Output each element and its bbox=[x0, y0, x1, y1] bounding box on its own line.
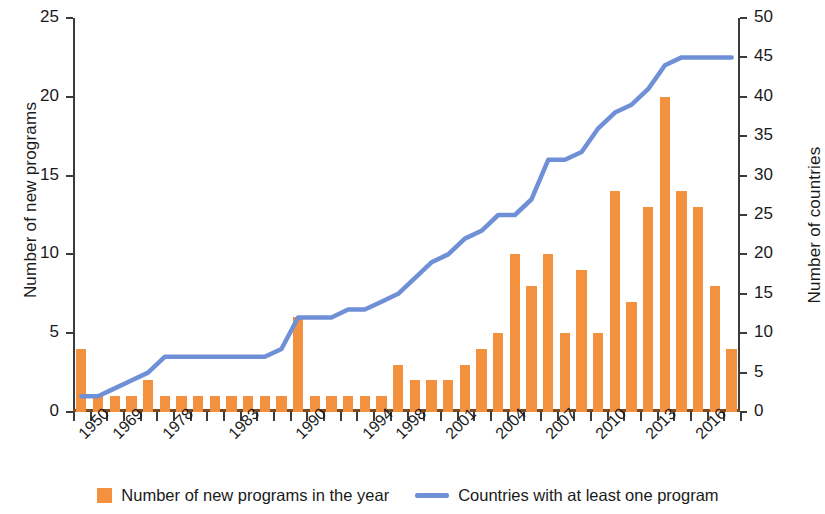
y-tick-label-right: 10 bbox=[754, 322, 773, 342]
y-tick-right bbox=[740, 372, 747, 374]
y-tick-left bbox=[66, 411, 73, 413]
x-tick bbox=[440, 412, 442, 421]
legend-line-icon bbox=[415, 493, 449, 498]
x-tick bbox=[290, 412, 292, 421]
x-tick bbox=[273, 412, 275, 421]
legend-label-line: Countries with at least one program bbox=[458, 486, 718, 505]
x-tick bbox=[206, 412, 208, 421]
y-tick-left bbox=[66, 17, 73, 19]
x-tick bbox=[73, 412, 75, 421]
x-axis-labels: 1950196919781983199019941998200120042007… bbox=[73, 424, 740, 484]
y-tick-left bbox=[66, 253, 73, 255]
line-series bbox=[73, 18, 740, 412]
x-tick bbox=[740, 412, 742, 421]
y-tick-label-left: 0 bbox=[0, 401, 59, 421]
y-tick-right bbox=[740, 56, 747, 58]
legend-item-bars: Number of new programs in the year bbox=[97, 486, 389, 505]
line-path bbox=[81, 57, 731, 396]
y-tick-right bbox=[740, 253, 747, 255]
x-tick bbox=[223, 412, 225, 421]
y-tick-right bbox=[740, 214, 747, 216]
y-axis-title-left: Number of new programs bbox=[21, 75, 41, 325]
y-tick-right bbox=[740, 96, 747, 98]
y-tick-label-right: 45 bbox=[754, 46, 773, 66]
y-tick-right bbox=[740, 175, 747, 177]
y-tick-label-right: 50 bbox=[754, 7, 773, 27]
y-tick-right bbox=[740, 135, 747, 137]
x-tick bbox=[540, 412, 542, 421]
y-tick-left bbox=[66, 332, 73, 334]
y-tick-label-right: 35 bbox=[754, 125, 773, 145]
y-tick-label-left: 20 bbox=[0, 86, 59, 106]
x-tick bbox=[490, 412, 492, 421]
y-tick-label-left: 5 bbox=[0, 322, 59, 342]
x-tick bbox=[356, 412, 358, 421]
y-tick-left bbox=[66, 175, 73, 177]
plot-area bbox=[73, 18, 740, 412]
y-tick-label-right: 5 bbox=[754, 362, 763, 382]
y-tick-label-right: 40 bbox=[754, 86, 773, 106]
y-tick-right bbox=[740, 17, 747, 19]
legend-item-line: Countries with at least one program bbox=[415, 486, 718, 505]
y-tick-label-right: 20 bbox=[754, 243, 773, 263]
y-tick-left bbox=[66, 96, 73, 98]
legend-label-bars: Number of new programs in the year bbox=[121, 486, 389, 505]
y-axis-title-right: Number of countries bbox=[805, 100, 825, 350]
y-tick-right bbox=[740, 293, 747, 295]
y-tick-label-right: 25 bbox=[754, 204, 773, 224]
x-tick bbox=[590, 412, 592, 421]
legend-square-icon bbox=[97, 488, 112, 503]
y-tick-label-left: 10 bbox=[0, 243, 59, 263]
x-tick bbox=[640, 412, 642, 421]
y-tick-label-left: 15 bbox=[0, 165, 59, 185]
x-tick bbox=[340, 412, 342, 421]
x-tick bbox=[156, 412, 158, 421]
y-tick-label-left: 25 bbox=[0, 7, 59, 27]
y-tick-right bbox=[740, 332, 747, 334]
x-tick bbox=[690, 412, 692, 421]
y-tick-label-right: 15 bbox=[754, 283, 773, 303]
chart-legend: Number of new programs in the year Count… bbox=[0, 486, 816, 505]
y-tick-label-right: 0 bbox=[754, 401, 763, 421]
y-tick-label-right: 30 bbox=[754, 165, 773, 185]
